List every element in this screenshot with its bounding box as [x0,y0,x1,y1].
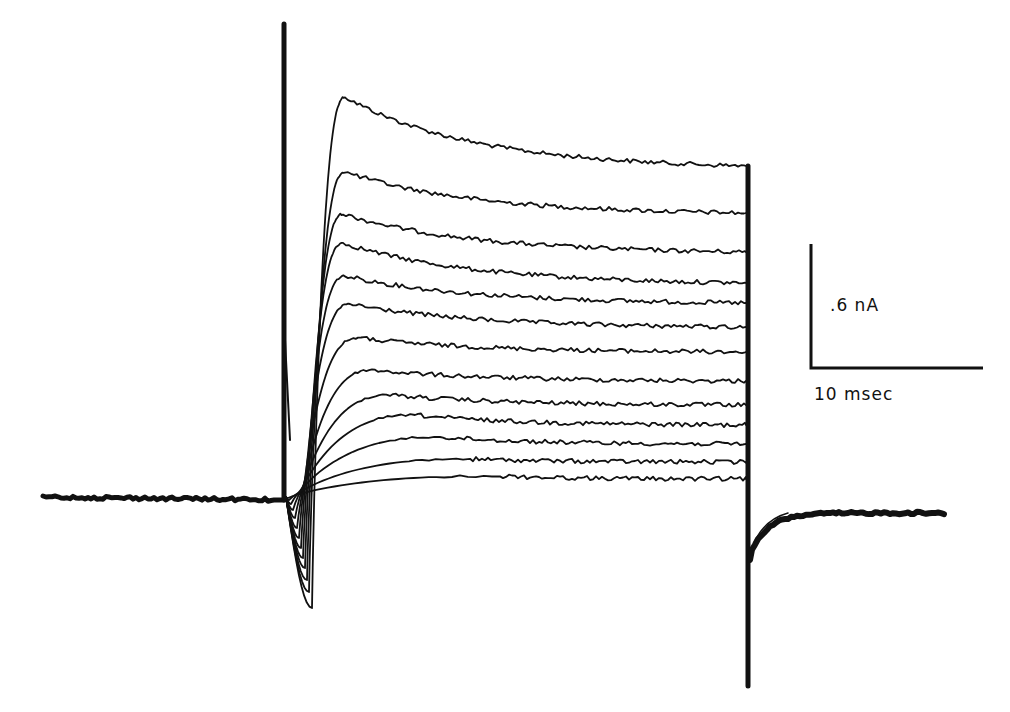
sweep-trace-5 [286,275,746,558]
sweep-traces [286,97,746,608]
baseline-trace [43,496,284,501]
sweep-trace-13 [286,475,746,498]
sweep-trace-3 [286,214,746,580]
baseline-and-transients [43,24,944,686]
traces-plot [0,0,1010,712]
tail-current-trace [750,512,944,560]
scale-bar-time-label: 10 msec [814,384,893,404]
sweep-trace-9 [286,394,746,518]
scale-bar-current-label: .6 nA [830,295,879,315]
current-traces-figure: .6 nA 10 msec [0,0,1010,712]
sweep-trace-7 [286,337,746,538]
sweep-trace-2 [286,172,746,592]
sweep-trace-6 [286,304,746,548]
sweep-trace-8 [286,369,746,528]
